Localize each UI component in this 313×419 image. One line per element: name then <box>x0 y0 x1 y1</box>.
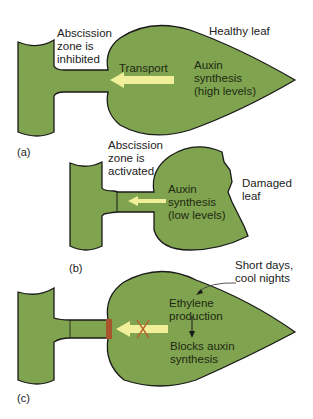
blocks-auxin-label: Blocks auxin synthesis <box>170 340 235 366</box>
ethylene-production-label: Ethylene production <box>169 297 223 323</box>
healthy-leaf-label: Healthy leaf <box>209 25 270 38</box>
damaged-leaf-label: Damaged leaf <box>242 177 292 203</box>
block-bar <box>106 319 112 339</box>
panel-c-label: (c) <box>17 392 30 404</box>
panel-c-drawing <box>18 271 295 386</box>
auxin-high-label: Auxin synthesis (high levels) <box>194 59 256 98</box>
abscission-activated-label: Abscission zone is activated <box>108 139 163 178</box>
panel-b-label: (b) <box>69 262 82 274</box>
transport-label: Transport <box>119 62 168 75</box>
panel-a-label: (a) <box>17 146 30 158</box>
short-days-callout: Short days, cool nights <box>235 259 293 285</box>
abscission-inhibited-label: Abscission zone is inhibited <box>57 27 112 66</box>
auxin-low-label: Auxin synthesis (low levels) <box>168 183 226 222</box>
